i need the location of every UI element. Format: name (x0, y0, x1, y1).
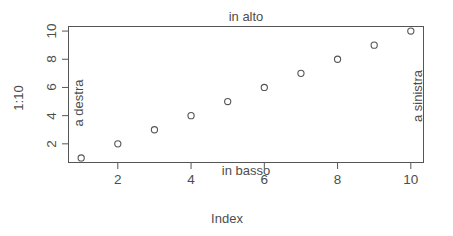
margin-label-left: a destra (72, 80, 85, 127)
x-tick-label: 8 (334, 173, 342, 187)
y-tick-label: 10 (45, 24, 59, 39)
x-tick-label: 6 (261, 173, 269, 187)
y-tick-label: 8 (45, 55, 59, 63)
x-tick-label: 4 (187, 173, 195, 187)
y-tick-label: 4 (45, 112, 59, 120)
x-tick-label: 10 (403, 173, 418, 187)
margin-label-top: in alto (229, 10, 264, 23)
y-axis-title: 1:10 (12, 85, 25, 110)
y-tick-label: 6 (45, 84, 59, 92)
plot-figure: in alto in basso a destra a sinistra 1:1… (0, 0, 453, 236)
x-tick-label: 2 (114, 173, 122, 187)
margin-label-right: a sinistra (411, 70, 424, 122)
plot-area-box (68, 26, 424, 163)
y-tick-label: 2 (45, 140, 59, 148)
x-axis-title: Index (211, 212, 243, 225)
